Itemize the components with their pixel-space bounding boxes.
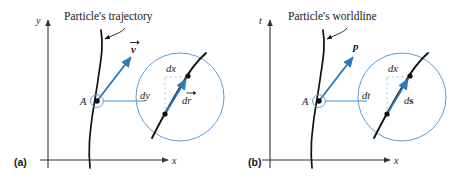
velocity-label-text: v [131, 43, 136, 55]
panel-a-title: Particle's trajectory [64, 10, 153, 23]
inset-start-dot [384, 111, 389, 116]
dr-overbar-arrowhead [193, 91, 196, 95]
inset-curve [152, 53, 206, 138]
panel-a-label: (a) [14, 156, 27, 168]
panel-b-dt-label: dt [362, 90, 371, 101]
ds-s-part: s [409, 95, 413, 106]
panel-a-displacement-label: dr [182, 91, 196, 106]
point-a-dot [316, 98, 321, 103]
point-a-dot [94, 98, 99, 103]
panel-a-dx-label: dx [166, 63, 176, 74]
panel-b-label: (b) [248, 156, 261, 168]
panel-b-displacement-label: ds [404, 95, 413, 106]
panel-a-vector-label: v [130, 40, 140, 55]
panel-a-trajectory: Particle's trajectory y x A v dx dy dr (… [0, 0, 234, 192]
panel-b-drawing: Particle's worldline t x A p dx dt ds (b… [234, 0, 468, 192]
physics-figure: Particle's trajectory y x A v dx dy dr (… [0, 0, 468, 192]
velocity-vector [97, 57, 131, 101]
panel-b-vector-label: p [352, 40, 359, 52]
panel-a-dy-label: dy [140, 90, 150, 101]
dr-label-text: dr [182, 95, 192, 106]
title-leader-line [327, 28, 347, 39]
panel-b-x-axis-label: x [393, 155, 399, 166]
inset-start-dot [162, 111, 167, 116]
panel-b-dx-label: dx [388, 63, 398, 74]
title-leader-line [105, 28, 125, 39]
inset-end-dot [185, 73, 190, 78]
inset-circle [358, 53, 446, 141]
velocity-overbar-arrowhead [137, 40, 140, 44]
panel-b-point-label: A [301, 96, 309, 107]
panel-a-y-axis-label: y [35, 15, 41, 26]
inset-curve [374, 53, 428, 138]
momentum-vector [319, 57, 353, 101]
panel-b-title: Particle's worldline [288, 10, 377, 22]
panel-b-t-axis-label: t [259, 15, 262, 26]
inset-end-dot [407, 73, 412, 78]
panel-b-worldline: Particle's worldline t x A p dx dt ds (b… [234, 0, 468, 192]
panel-a-drawing: Particle's trajectory y x A v dx dy dr (… [0, 0, 234, 192]
panel-a-point-label: A [79, 96, 87, 107]
panel-a-x-axis-label: x [171, 155, 177, 166]
